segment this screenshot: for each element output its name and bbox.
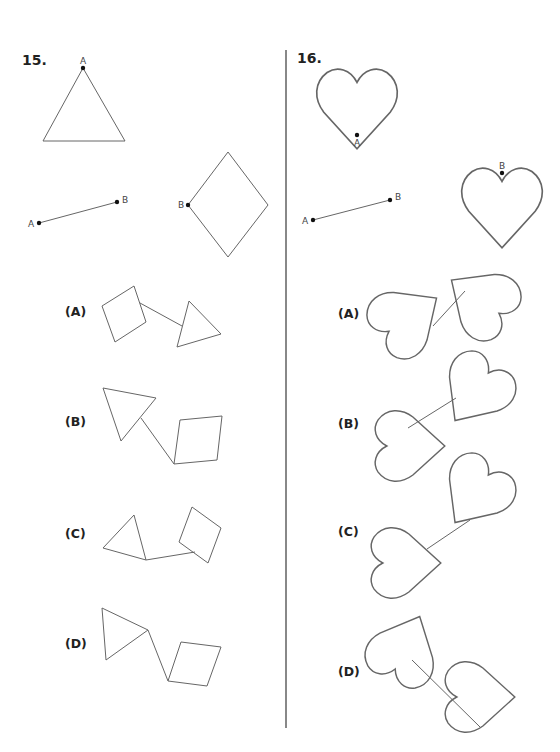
svg-text:A: A <box>28 219 35 229</box>
p15-option-b-figure <box>103 388 222 464</box>
p16-option-b-figure <box>375 343 524 481</box>
p15-option-c-figure <box>103 507 221 563</box>
svg-text:B: B <box>395 192 401 202</box>
p16-heart-a: A <box>317 69 398 149</box>
p15-triangle-label-a: A <box>80 56 87 66</box>
p15-segment: A B <box>28 195 128 229</box>
figures: A A B B A <box>0 0 560 752</box>
svg-text:B: B <box>178 200 184 210</box>
p16-option-a-figure <box>359 251 528 367</box>
svg-text:B: B <box>499 161 505 171</box>
p16-option-d-figure <box>358 602 514 733</box>
p15-rhombus: B <box>178 152 268 257</box>
p16-heart-b: B <box>462 161 543 248</box>
svg-text:A: A <box>354 138 361 148</box>
p15-triangle: A <box>43 56 125 141</box>
p16-option-c-figure <box>371 445 524 598</box>
svg-text:A: A <box>302 216 309 226</box>
svg-text:B: B <box>122 195 128 205</box>
p16-segment: A B <box>302 192 401 226</box>
p15-option-d-figure <box>102 608 221 686</box>
p15-option-a-figure <box>102 286 221 347</box>
